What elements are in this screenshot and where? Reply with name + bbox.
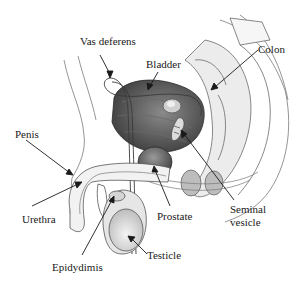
bladder xyxy=(112,80,204,152)
label-penis: Penis xyxy=(15,128,39,140)
label-testicle: Testicle xyxy=(147,249,181,261)
label-bladder: Bladder xyxy=(146,58,181,70)
label-prostate: Prostate xyxy=(157,210,192,222)
anatomy-diagram: Vas deferens Bladder Colon Penis Urethra… xyxy=(0,0,301,286)
label-urethra: Urethra xyxy=(22,213,56,225)
anatomy-illustration xyxy=(0,0,301,286)
label-colon: Colon xyxy=(258,43,285,55)
label-seminal: Seminal xyxy=(230,203,266,215)
label-vesicle: vesicle xyxy=(230,216,261,228)
testicle xyxy=(103,190,146,254)
label-epidydimis: Epidydimis xyxy=(52,261,103,273)
label-vas-deferens: Vas deferens xyxy=(80,35,136,47)
